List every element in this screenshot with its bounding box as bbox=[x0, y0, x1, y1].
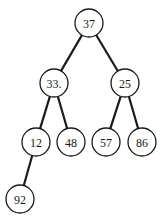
edge-33-12 bbox=[40, 96, 50, 128]
node-label: 37 bbox=[83, 17, 95, 31]
tree-node-48: 48 bbox=[57, 128, 85, 156]
tree-node-25: 25 bbox=[111, 69, 139, 97]
tree-diagram: 3733.251248578692 bbox=[0, 0, 166, 219]
node-label: 92 bbox=[14, 193, 26, 207]
node-label: 48 bbox=[65, 136, 77, 150]
edges bbox=[24, 35, 138, 186]
tree-node-57: 57 bbox=[92, 128, 120, 156]
edge-12-92 bbox=[24, 155, 32, 185]
node-label: 86 bbox=[136, 136, 148, 150]
node-label: 57 bbox=[100, 136, 112, 150]
edge-25-57 bbox=[110, 96, 120, 128]
node-label: 12 bbox=[30, 136, 42, 150]
tree-node-12: 12 bbox=[22, 128, 50, 156]
node-label: 33. bbox=[47, 77, 62, 91]
tree-node-92: 92 bbox=[6, 185, 34, 213]
tree-node-86: 86 bbox=[128, 128, 156, 156]
tree-node-33: 33. bbox=[40, 69, 68, 97]
edge-37-33 bbox=[61, 35, 82, 71]
edge-25-86 bbox=[129, 96, 138, 128]
node-label: 25 bbox=[119, 77, 131, 91]
edge-37-25 bbox=[96, 35, 118, 71]
tree-node-37: 37 bbox=[75, 9, 103, 37]
edge-33-48 bbox=[58, 96, 67, 128]
